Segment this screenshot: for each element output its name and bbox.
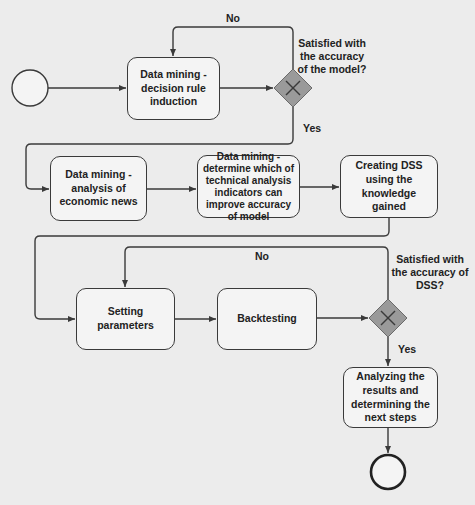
- task-creating-dss: Creating DSS using the knowledge gained: [340, 155, 438, 218]
- gateway-2-question: Satisfied with the accuracy of DSS?: [390, 253, 470, 292]
- task-analysis-economic-news: Data mining -analysis of economic news: [50, 156, 147, 221]
- task-decision-rule-induction: Data mining - decision rule induction: [127, 57, 220, 120]
- task-technical-indicators: Data mining - determine which of technic…: [197, 155, 300, 218]
- end-circle-icon: [371, 455, 405, 489]
- gateway-1-yes-label: Yes: [303, 122, 321, 135]
- gateway-2-no-label: No: [255, 250, 269, 263]
- task-analyzing-results: Analyzing the results and determining th…: [343, 367, 438, 428]
- gateway-1-no-label: No: [226, 12, 240, 25]
- gateway-2-yes-label: Yes: [398, 343, 416, 356]
- task-backtesting: Backtesting: [217, 288, 317, 350]
- start-circle-icon: [12, 70, 48, 106]
- exclusive-gateway-x-icon: [369, 299, 407, 337]
- gateway-1-question: Satisfied with the accuracy of the model…: [296, 37, 368, 76]
- task-setting-parameters: Setting parameters: [76, 288, 175, 350]
